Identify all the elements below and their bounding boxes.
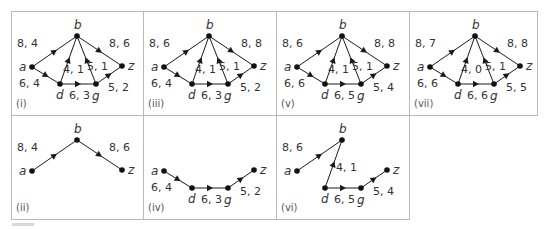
edge-label: 6, 3 [201,193,222,206]
edge-label: 4, 1 [195,63,216,76]
edge-label: 8, 7 [415,37,436,50]
panel-tag: (iii) [148,98,164,109]
node-b [472,33,478,39]
node-a [161,168,167,174]
edge-g-b: 5, 1 [475,36,506,84]
edge-label: 6, 6 [417,77,438,90]
node-label-z: z [392,163,400,177]
node-label-z: z [259,59,267,73]
edge-label: 6, 3 [69,89,90,102]
graph-v: 8, 68, 86, 64, 15, 16, 55, 4abdgz(v) [276,11,409,115]
arrow-icon [50,154,57,160]
node-label-g: g [224,89,232,103]
arrow-icon [50,50,57,56]
edge-g-b: 5, 1 [77,36,108,84]
edge-label: 8, 4 [17,141,38,154]
node-a [161,64,167,70]
arrow-icon [237,73,244,79]
node-d [189,81,195,87]
node-label-b: b [74,122,82,136]
arrow-icon [207,185,213,191]
edge-label: 8, 6 [109,37,130,50]
edge-label: 4, 0 [461,63,482,76]
panel-iii: 8, 68, 86, 44, 15, 16, 35, 2abdgz(iii) [143,11,276,115]
arrow-icon [503,73,510,79]
node-label-d: d [321,192,329,206]
node-a [294,64,300,70]
node-b [339,33,345,39]
node-a [29,64,35,70]
panel-v: 8, 68, 86, 64, 15, 16, 55, 4abdgz(v) [276,11,409,115]
edge-label: 6, 4 [151,181,172,194]
node-label-a: a [19,164,26,178]
node-z [251,167,257,173]
node-g [491,81,497,87]
arrow-icon [75,81,81,87]
edge-label: 4, 1 [336,161,357,174]
edge-label: 5, 4 [373,81,394,94]
node-label-d: d [454,88,462,102]
edge-label: 8, 8 [374,37,395,50]
node-label-b: b [206,18,214,32]
edge-g-b: 5, 1 [342,36,373,84]
edge-label: 6, 5 [334,193,355,206]
node-label-z: z [127,59,135,73]
edge-label: 6, 4 [19,77,40,90]
node-label-d: d [188,88,196,102]
edge-d-g: 6, 6 [458,81,494,102]
edge-label: 8, 8 [507,37,528,50]
node-g [225,81,231,87]
node-label-a: a [417,60,424,74]
arrow-icon [182,50,189,56]
node-z [517,63,523,69]
graph-iv: 6, 46, 35, 2adgz(iv) [143,115,276,219]
node-label-b: b [74,18,82,32]
node-z [384,63,390,69]
node-label-z: z [259,163,267,177]
edge-d-g: 6, 3 [192,81,228,102]
node-b [339,137,345,143]
node-label-d: d [188,192,196,206]
node-label-b: b [339,18,347,32]
edge-d-b: 4, 0 [458,36,482,84]
node-label-z: z [392,59,400,73]
graph-iii: 8, 68, 86, 44, 15, 16, 35, 2abdgz(iii) [143,11,276,115]
edge-label: 5, 2 [240,185,261,198]
panel-vi: 8, 64, 16, 55, 4abdgz(vi) [276,115,409,219]
arrow-icon [370,73,377,79]
graph-vii: 8, 78, 86, 64, 05, 16, 65, 5abdgz(vii) [409,11,542,115]
node-label-b: b [339,122,347,136]
edge-d-g: 6, 3 [60,81,96,102]
edge-label: 4, 1 [328,63,349,76]
node-label-d: d [56,88,64,102]
arrow-icon [95,47,102,53]
panel-tag: (v) [281,98,295,109]
edge-d-g: 6, 5 [325,81,361,102]
node-label-z: z [525,59,533,73]
node-g [358,185,364,191]
edge-label: 8, 8 [241,37,262,50]
graph-vi: 8, 64, 16, 55, 4abdgz(vi) [276,115,409,219]
panel-tag: (ii) [16,202,29,213]
edge-label: 5, 4 [373,185,394,198]
edge-g-b: 5, 1 [209,36,240,84]
node-z [119,63,125,69]
edge-label: 8, 6 [282,37,303,50]
arrow-icon [315,50,322,56]
edge-g-z: 5, 2 [228,170,261,198]
edge-label: 6, 3 [201,89,222,102]
edge-label: 6, 5 [334,89,355,102]
edge-b-z: 8, 6 [77,140,130,170]
arrow-icon [370,177,377,183]
node-label-g: g [490,89,498,103]
arrow-icon [315,154,322,160]
node-z [251,63,257,69]
node-label-g: g [224,193,232,207]
node-d [455,81,461,87]
arrow-icon [207,81,213,87]
panel-iv: 6, 46, 35, 2adgz(iv) [143,115,276,219]
panel-tag: (i) [16,98,27,109]
arrow-icon [448,50,455,56]
figure-caption-fragment [12,223,34,226]
node-label-g: g [357,193,365,207]
